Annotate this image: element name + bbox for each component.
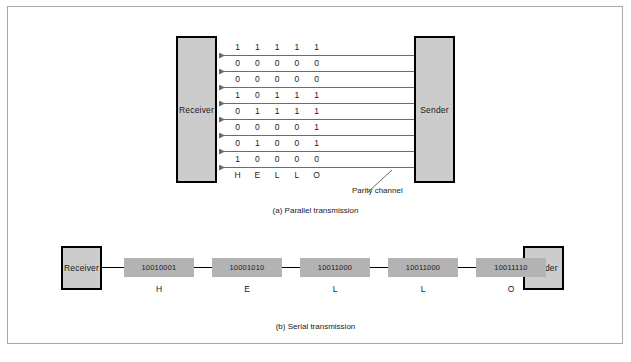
serial-connector (282, 267, 300, 268)
receiver-node-parallel: Receiver (176, 36, 217, 183)
sender-node-parallel: Sender (414, 36, 455, 183)
serial-frame: 10010001 (124, 258, 194, 277)
bit-cell: 0 (231, 74, 244, 85)
bit-cell: 1 (310, 90, 323, 101)
bit-cell: 0 (290, 74, 303, 85)
serial-frame-letter: L (300, 284, 370, 294)
bit-row: 1 0 1 1 1 (231, 90, 323, 106)
serial-frame: 10011000 (300, 258, 370, 277)
bit-cell: 0 (251, 90, 264, 101)
bit-cell: 0 (231, 106, 244, 117)
receiver-label-parallel: Receiver (179, 105, 214, 115)
serial-connector (194, 267, 212, 268)
serial-frame-bits: 10001010 (230, 263, 265, 272)
serial-frame: 10011000 (388, 258, 458, 277)
bit-cell: 0 (271, 122, 284, 133)
bit-cell: 1 (251, 138, 264, 149)
parallel-letter: O (310, 170, 323, 180)
bit-cell: 0 (271, 138, 284, 149)
bit-row: 1 1 1 1 1 (231, 42, 323, 58)
serial-frame-letter: E (212, 284, 282, 294)
bit-cell: 1 (231, 154, 244, 165)
serial-frame-bits: 10011000 (406, 263, 440, 272)
bit-cell: 1 (271, 106, 284, 117)
bit-cell: 0 (290, 122, 303, 133)
bit-cell: 1 (251, 42, 264, 53)
bit-cell: 1 (290, 106, 303, 117)
bit-cell: 0 (310, 74, 323, 85)
serial-frame-bits: 10011110 (494, 263, 527, 272)
caption-serial: (b) Serial transmission (0, 322, 631, 331)
receiver-node-serial: Receiver (61, 246, 102, 290)
bit-row: 0 0 0 0 0 (231, 58, 323, 74)
bit-cell: 0 (271, 58, 284, 69)
serial-frame-letter: O (476, 284, 546, 294)
bit-cell: 0 (310, 154, 323, 165)
caption-parallel: (a) Parallel transmission (0, 206, 631, 215)
parallel-letter: L (290, 170, 303, 180)
parity-channel-annotation: Parity channel (352, 186, 403, 195)
bit-cell: 1 (251, 106, 264, 117)
parallel-letter: L (271, 170, 284, 180)
bit-cell: 1 (290, 90, 303, 101)
serial-frame-letter: H (124, 284, 194, 294)
bit-cell: 0 (310, 58, 323, 69)
bit-cell: 1 (310, 138, 323, 149)
bit-cell: 0 (290, 58, 303, 69)
bit-cell: 0 (290, 154, 303, 165)
bit-cell: 1 (271, 90, 284, 101)
bit-row: 0 0 0 0 1 (231, 122, 323, 138)
bit-cell: 0 (251, 154, 264, 165)
parallel-letter: H (231, 170, 244, 180)
serial-frame-letter: L (388, 284, 458, 294)
bit-cell: 1 (310, 42, 323, 53)
serial-connector (102, 267, 124, 268)
bit-cell: 0 (271, 74, 284, 85)
bit-cell: 0 (251, 58, 264, 69)
bit-cell: 1 (290, 42, 303, 53)
serial-frame-bits: 10011000 (318, 263, 352, 272)
serial-frame-bits: 10010001 (142, 263, 177, 272)
parallel-bit-grid: 1 1 1 1 1 0 0 0 0 0 0 0 0 0 0 1 0 1 1 1 (231, 42, 323, 170)
bit-cell: 0 (231, 138, 244, 149)
bit-row: 0 1 1 1 1 (231, 106, 323, 122)
bit-cell: 1 (231, 90, 244, 101)
bit-cell: 1 (310, 106, 323, 117)
serial-frame: 10001010 (212, 258, 282, 277)
bit-cell: 0 (231, 58, 244, 69)
bit-cell: 1 (231, 42, 244, 53)
serial-connector (458, 267, 476, 268)
bit-cell: 0 (271, 154, 284, 165)
serial-frame: 10011110 (476, 258, 546, 277)
bit-cell: 0 (251, 74, 264, 85)
parallel-letter-row: H E L L O (231, 170, 323, 180)
bit-cell: 0 (231, 122, 244, 133)
bit-cell: 1 (271, 42, 284, 53)
bit-cell: 0 (251, 122, 264, 133)
sender-label-parallel: Sender (420, 105, 449, 115)
figure-canvas: Receiver Sender 1 1 1 1 1 0 0 0 0 0 0 0 … (0, 0, 631, 362)
bit-cell: 1 (310, 122, 323, 133)
bit-row: 0 0 0 0 0 (231, 74, 323, 90)
serial-connector (370, 267, 388, 268)
bit-row: 1 0 0 0 0 (231, 154, 323, 170)
receiver-label-serial: Receiver (64, 263, 99, 273)
parallel-letter: E (251, 170, 264, 180)
bit-row: 0 1 0 0 1 (231, 138, 323, 154)
bit-cell: 0 (290, 138, 303, 149)
